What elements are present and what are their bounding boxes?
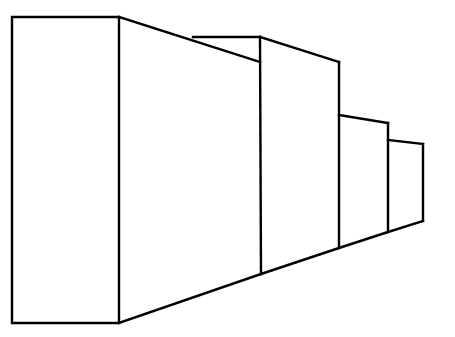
box-3-top-receding-edge [260, 37, 339, 62]
perspective-boxes-diagram [0, 0, 455, 337]
box-1-side [119, 17, 260, 62]
box-2 [193, 37, 261, 274]
box-2-front-vertical-edge [260, 37, 261, 274]
box-3 [260, 37, 339, 248]
ground-receding-edge [119, 221, 423, 323]
box-4-top-receding-edge [339, 115, 388, 123]
box-1 [12, 17, 119, 323]
box-4 [339, 115, 388, 232]
box-5 [388, 140, 423, 221]
box-1-top-receding-edge [119, 17, 260, 62]
box-5-top-edge [388, 140, 423, 144]
